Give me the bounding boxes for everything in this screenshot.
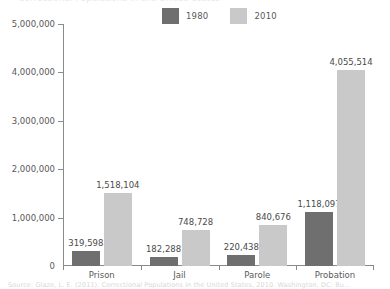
x-axis-label-jail: Jail [173,270,185,280]
legend-item-1980[interactable]: 1980 [162,8,208,24]
x-axis-label-probation: Probation [315,270,355,280]
bar-probation-1980[interactable]: 1,118,097 [305,212,333,266]
x-tick-3 [296,266,297,270]
bar-group-parole: 220,438 840,676 [219,225,297,266]
bar-group-probation: 1,118,097 4,055,514 [296,70,374,266]
bar-jail-1980[interactable]: 182,288 [150,257,178,266]
bar-value-parole-2010: 840,676 [256,212,291,222]
chart-title: Correctional Populations in the United S… [18,0,220,3]
source-note: Source: Glaze, L. E. (2011). Correctiona… [8,281,351,289]
bar-jail-2010[interactable]: 748,728 [182,230,210,266]
bar-prison-2010[interactable]: 1,518,104 [104,193,132,267]
y-tick-label-1000000: 1,000,000 [12,213,55,223]
y-tick-label-2000000: 2,000,000 [12,164,55,174]
y-tick-label-0: 0 [50,261,55,271]
y-tick-4000000 [58,72,63,73]
bar-value-probation-1980: 1,118,097 [297,199,340,209]
x-tick-0 [63,266,64,270]
bar-value-probation-2010: 4,055,514 [329,57,372,67]
bar-probation-2010[interactable]: 4,055,514 [337,70,365,266]
legend-label-2010: 2010 [254,11,276,21]
bar-value-prison-1980: 319,598 [68,238,103,248]
bar-parole-2010[interactable]: 840,676 [259,225,287,266]
bar-value-prison-2010: 1,518,104 [96,180,139,190]
bar-group-prison: 319,598 1,518,104 [63,193,141,267]
plot-area: 5,000,000 4,000,000 3,000,000 2,000,000 … [63,24,374,266]
bar-value-jail-1980: 182,288 [146,244,181,254]
x-tick-2 [219,266,220,270]
x-axis-label-prison: Prison [89,270,115,280]
legend-swatch-2010 [230,8,247,24]
y-tick-label-4000000: 4,000,000 [12,67,55,77]
legend-item-2010[interactable]: 2010 [230,8,276,24]
bar-value-parole-1980: 220,438 [224,242,259,252]
legend-swatch-1980 [162,8,179,24]
chart-legend: 1980 2010 [162,8,277,24]
x-tick-1 [141,266,142,270]
y-tick-3000000 [58,121,63,122]
x-tick-4 [373,266,374,270]
y-tick-label-3000000: 3,000,000 [12,116,55,126]
legend-label-1980: 1980 [186,11,208,21]
chart-title-cutoff: Correctional Populations in the United S… [0,0,390,7]
y-tick-2000000 [58,169,63,170]
y-tick-5000000 [58,24,63,25]
x-axis-label-parole: Parole [244,270,270,280]
bar-parole-1980[interactable]: 220,438 [227,255,255,266]
bar-prison-1980[interactable]: 319,598 [72,251,100,267]
bar-group-jail: 182,288 748,728 [141,230,219,266]
bar-value-jail-2010: 748,728 [178,217,213,227]
y-tick-label-5000000: 5,000,000 [12,19,55,29]
